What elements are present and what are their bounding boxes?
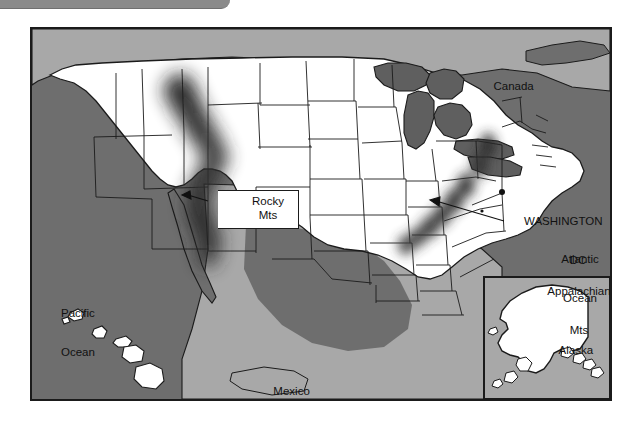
secondary-city-marker bbox=[480, 209, 483, 212]
map-figure: Canada Pacific Ocean Mexico WASHINGTON D… bbox=[30, 27, 612, 401]
window-toolbar[interactable] bbox=[0, 0, 230, 9]
map-svg bbox=[32, 29, 610, 399]
map-canvas bbox=[32, 29, 610, 399]
washington-dc-marker bbox=[499, 189, 505, 195]
alaska-inset bbox=[484, 277, 610, 399]
label-rocky-line2: Mts bbox=[240, 208, 296, 222]
screenshot-root: Canada Pacific Ocean Mexico WASHINGTON D… bbox=[0, 0, 639, 424]
rocky-mts-callout: Rocky Mts bbox=[218, 190, 299, 229]
label-rocky-line1: Rocky bbox=[240, 194, 296, 208]
rocky-mts-callout-text: Rocky Mts bbox=[240, 194, 296, 222]
